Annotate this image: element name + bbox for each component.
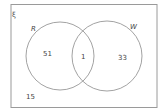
set-w-only-count: 33 <box>118 54 127 62</box>
set-w-label: W <box>130 23 138 31</box>
intersection-count: 1 <box>81 53 85 61</box>
universal-set-label: ξ <box>12 11 16 19</box>
venn-diagram: ξ R W 51 1 33 15 <box>0 0 165 110</box>
set-r-only-count: 51 <box>43 50 52 58</box>
set-r-label: R <box>31 25 36 33</box>
outside-count: 15 <box>26 93 35 101</box>
